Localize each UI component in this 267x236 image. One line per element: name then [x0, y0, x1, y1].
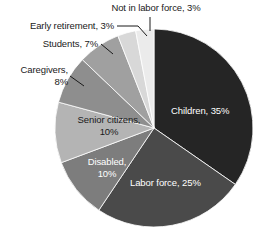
slice-label-children: Children, 35% [171, 105, 265, 117]
slice-label-not-in-labor-force: Not in labor force, 3% [86, 2, 226, 14]
slice-label-labor-force: Labor force, 25% [130, 177, 240, 189]
slice-label-early-retirement: Early retirement, 3% [0, 20, 114, 32]
slice-label-disabled: Disabled, 10% [74, 156, 140, 179]
slice-label-senior-citizens: Senior citizens, 10% [57, 114, 161, 137]
slice-label-caregivers: Caregivers, 8% [0, 64, 68, 87]
pie-chart: Not in labor force, 3% Early retirement,… [0, 0, 267, 236]
slice-label-students: Students, 7% [0, 38, 98, 50]
